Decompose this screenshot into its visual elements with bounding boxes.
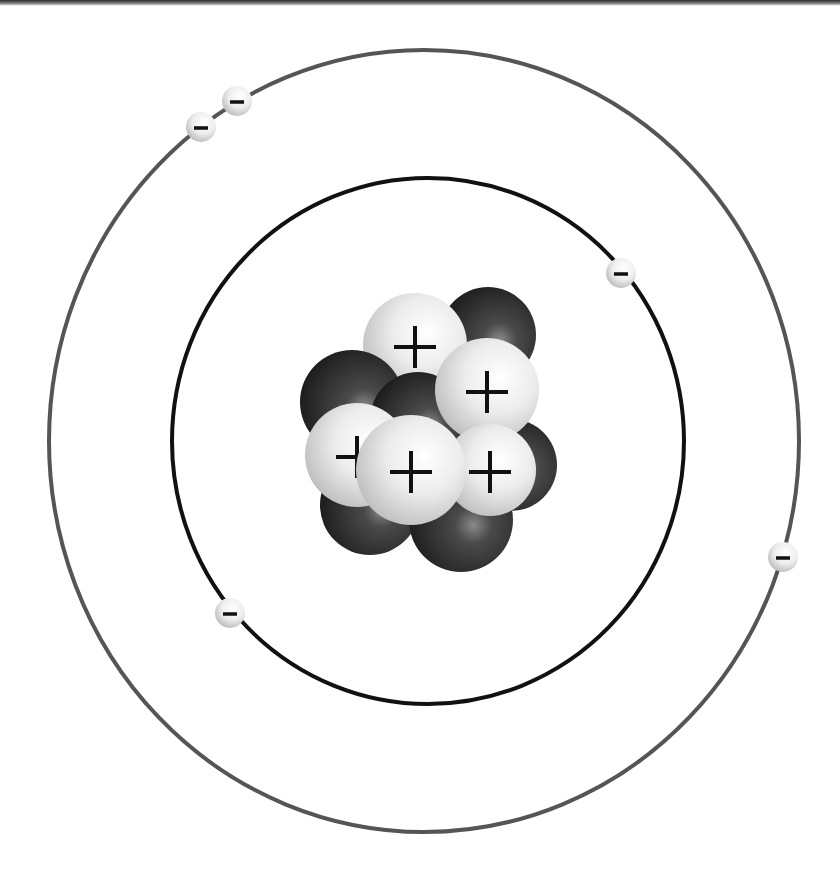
electron <box>606 258 636 288</box>
nucleus <box>300 287 557 572</box>
electron <box>222 86 252 116</box>
electron <box>768 542 798 572</box>
electron <box>215 598 245 628</box>
atom-diagram <box>0 0 840 875</box>
electron <box>186 112 216 142</box>
proton-particle <box>356 415 466 525</box>
